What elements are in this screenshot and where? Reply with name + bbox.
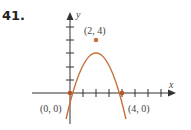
x-axis-arrow-icon bbox=[168, 90, 176, 97]
x-axis-label: x bbox=[168, 79, 174, 90]
root-label: (4, 0) bbox=[128, 103, 150, 115]
point-vertex bbox=[94, 38, 99, 43]
parabola-curve bbox=[66, 53, 126, 119]
problem-number: 41. bbox=[2, 8, 25, 23]
parabola-graph: 41. x y (2, 4) (0, 0) (4, 0) bbox=[0, 0, 191, 130]
y-axis-label: y bbox=[75, 9, 81, 20]
point-origin bbox=[68, 91, 73, 96]
point-root bbox=[120, 91, 125, 96]
y-axis-arrow-icon bbox=[67, 12, 74, 20]
origin-label: (0, 0) bbox=[40, 103, 62, 115]
vertex-label: (2, 4) bbox=[84, 25, 106, 37]
